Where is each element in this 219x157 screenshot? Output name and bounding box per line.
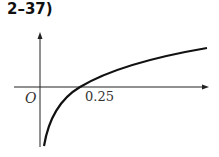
graph: O 0.25 [0,0,219,157]
x-intercept-label: 0.25 [85,89,114,104]
x-axis-arrow-icon [202,85,209,90]
y-axis-arrow-icon [38,32,43,39]
function-curve [44,48,207,146]
origin-label: O [25,90,37,106]
